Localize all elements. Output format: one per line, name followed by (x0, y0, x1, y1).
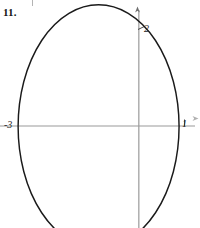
scan-artifact-mark (32, 0, 33, 6)
problem-number: 11. (3, 7, 17, 18)
x-intercept-right-label: 1 (182, 119, 187, 129)
ellipse-curve (18, 5, 179, 228)
figure-container: 11. 2 -3 1 (0, 0, 200, 228)
coordinate-plot (0, 0, 200, 228)
x-axis-arrowhead (193, 116, 199, 121)
y-intercept-label: 2 (144, 24, 149, 34)
y-axis-arrowhead (135, 7, 140, 13)
x-intercept-left-label: -3 (4, 120, 12, 130)
